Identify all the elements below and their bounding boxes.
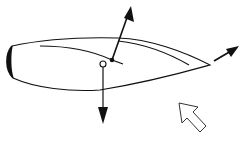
leading-edge-cap — [7, 46, 13, 78]
camber-line — [40, 46, 112, 60]
center-of-gravity — [100, 61, 106, 67]
diagram-canvas — [0, 0, 245, 141]
airfoil-diagram — [0, 0, 245, 141]
upper-inner-line — [118, 41, 189, 65]
trailing-edge-arrowhead — [226, 46, 239, 57]
lift-arrow — [112, 12, 129, 60]
airflow-arrow — [179, 103, 206, 132]
weight-arrowhead — [98, 107, 108, 124]
